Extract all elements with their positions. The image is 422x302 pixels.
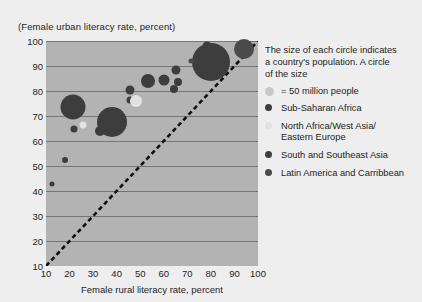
legend-swatch-wrap (265, 168, 281, 176)
legend-swatch-wrap (265, 150, 281, 158)
legend-item-label: Latin America and Carribbean (281, 168, 404, 180)
y-axis-tick-label: 20 (9, 236, 43, 247)
y-axis-tick-label: 50 (9, 161, 43, 172)
legend-item-label: Sub-Saharan Africa (281, 103, 362, 115)
circle-icon (265, 169, 272, 176)
legend-items: Sub-Saharan AfricaNorth Africa/West Asia… (265, 103, 415, 179)
x-axis-tick-label: 70 (182, 268, 193, 279)
legend-note: The size of each circle indicates a coun… (265, 44, 415, 81)
x-axis-tick-label: 10 (41, 268, 52, 279)
legend-item-label-line: Sub-Saharan Africa (281, 103, 362, 115)
gridline (46, 41, 258, 42)
data-bubble (71, 125, 78, 132)
x-axis-tick-label: 40 (111, 268, 122, 279)
y-axis-title: (Female urban literacy rate, percent) (18, 21, 175, 32)
legend-swatch-wrap (265, 121, 281, 129)
circle-icon (265, 104, 272, 111)
x-axis-tick-label: 30 (88, 268, 99, 279)
data-bubble (49, 181, 54, 186)
circle-icon (265, 151, 272, 158)
plot-area (46, 41, 258, 266)
y-axis-tick-label: 40 (9, 186, 43, 197)
data-bubble (79, 121, 86, 128)
gridline (46, 241, 258, 242)
x-axis-tick-label: 80 (206, 268, 217, 279)
x-axis-title: Female rural literacy rate, percent (46, 284, 258, 295)
data-bubble (174, 78, 182, 86)
x-axis-tick-label: 50 (135, 268, 146, 279)
data-bubble (113, 109, 123, 119)
y-axis-tick-label: 100 (9, 36, 43, 47)
legend-size-swatch-wrap (265, 86, 281, 96)
data-bubble (188, 59, 193, 64)
legend-item[interactable]: Latin America and Carribbean (265, 168, 415, 180)
legend-item-label: North Africa/West Asia/Eastern Europe (281, 121, 376, 144)
gridline (46, 216, 258, 217)
data-bubble (141, 74, 155, 88)
legend-item-label-line: Latin America and Carribbean (281, 168, 404, 180)
data-bubble (61, 95, 86, 120)
legend-swatch-wrap (265, 103, 281, 111)
legend-note-line-1: The size of each circle indicates (265, 44, 415, 56)
circle-icon (265, 87, 274, 96)
data-bubble (130, 95, 142, 107)
y-axis-tick-label: 90 (9, 61, 43, 72)
legend: The size of each circle indicates a coun… (265, 44, 415, 179)
y-axis-ticks: 102030405060708090100 (8, 41, 43, 266)
legend-item[interactable]: Sub-Saharan Africa (265, 103, 415, 115)
data-bubble (158, 74, 169, 85)
y-axis-tick-label: 70 (9, 111, 43, 122)
y-axis-tick-label: 80 (9, 86, 43, 97)
x-axis-ticks: 102030405060708090100 (46, 268, 258, 282)
gridline (46, 191, 258, 192)
data-bubble (234, 39, 254, 59)
legend-item-label: South and Southeast Asia (281, 150, 388, 162)
legend-item-label-line: South and Southeast Asia (281, 150, 388, 162)
gridline (46, 91, 258, 92)
legend-size-reference: = 50 million people (265, 86, 415, 98)
gridline (46, 141, 258, 142)
legend-size-label: = 50 million people (281, 86, 359, 98)
data-bubble (171, 65, 180, 74)
legend-note-line-2: a country's population. A circle (265, 56, 415, 68)
x-axis-tick-label: 90 (229, 268, 240, 279)
x-axis-tick-label: 60 (158, 268, 169, 279)
legend-note-line-3: of the size (265, 68, 415, 80)
chart-figure: (Female urban literacy rate, percent) 10… (0, 0, 422, 302)
gridline (46, 166, 258, 167)
chart-canvas: (Female urban literacy rate, percent) 10… (8, 8, 414, 294)
legend-item-label-line: North Africa/West Asia/ (281, 121, 376, 133)
data-bubble (125, 85, 134, 94)
data-bubble (62, 157, 68, 163)
legend-item-label-line: Eastern Europe (281, 132, 376, 144)
data-bubble (211, 50, 229, 68)
legend-item[interactable]: North Africa/West Asia/Eastern Europe (265, 121, 415, 144)
legend-item[interactable]: South and Southeast Asia (265, 150, 415, 162)
y-axis-tick-label: 30 (9, 211, 43, 222)
y-axis-tick-label: 10 (9, 261, 43, 272)
circle-icon (265, 122, 272, 129)
y-axis-tick-label: 60 (9, 136, 43, 147)
x-axis-tick-label: 20 (64, 268, 75, 279)
x-axis-tick-label: 100 (250, 268, 266, 279)
data-bubble (203, 42, 212, 51)
